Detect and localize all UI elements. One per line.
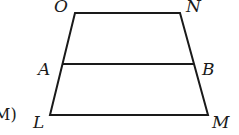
vertex-label-b: B <box>201 59 215 79</box>
vertex-label-a: A <box>36 59 50 79</box>
vertex-label-o: O <box>54 0 68 16</box>
trapezoid-diagram: M) O N A B L M <box>0 0 239 135</box>
vertex-label-n: N <box>185 0 202 16</box>
option-label: M) <box>0 105 17 124</box>
vertex-label-l: L <box>32 112 44 132</box>
vertex-label-m: M <box>211 112 230 132</box>
